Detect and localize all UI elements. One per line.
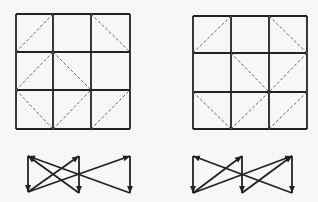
- dashed-diagonal: [231, 92, 269, 129]
- dashed-diagonal: [16, 52, 53, 90]
- dashed-diagonal: [231, 53, 269, 92]
- right-dashed-diagonals: [193, 16, 307, 129]
- left-panel: [16, 14, 130, 193]
- right-panel: [193, 16, 307, 193]
- dashed-diagonal: [193, 92, 231, 129]
- dashed-diagonal: [193, 16, 231, 53]
- dashed-diagonal: [269, 16, 307, 53]
- right-arrow-graph: [193, 156, 292, 193]
- dashed-diagonal: [53, 52, 91, 90]
- left-dashed-diagonals: [16, 14, 130, 129]
- dashed-diagonal: [16, 14, 53, 52]
- dashed-diagonal: [16, 90, 53, 129]
- arrow-bm-to-tr: [242, 156, 292, 193]
- dashed-diagonal: [53, 90, 91, 129]
- dashed-diagonal: [91, 14, 130, 52]
- dashed-diagonal: [91, 90, 130, 129]
- left-arrow-graph: [28, 156, 130, 193]
- diagram-canvas: [0, 0, 318, 202]
- dashed-diagonal: [269, 53, 307, 92]
- arrow-bl-to-tm: [193, 156, 242, 193]
- dashed-diagonal: [269, 92, 307, 129]
